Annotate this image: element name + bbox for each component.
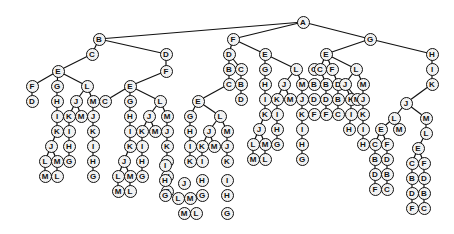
- tree-node: H: [357, 138, 370, 151]
- tree-node: I: [159, 159, 172, 172]
- tree-node: J: [221, 140, 234, 153]
- tree-node: G: [271, 138, 284, 151]
- tree-node: E: [320, 48, 333, 61]
- tree-node: B: [332, 93, 345, 106]
- tree-node: J: [143, 110, 156, 123]
- tree-node: D: [320, 93, 333, 106]
- tree-node: A: [297, 16, 310, 29]
- tree-node: J: [253, 123, 266, 136]
- tree-node: J: [87, 110, 100, 123]
- tree-node: F: [320, 108, 333, 121]
- tree-node: F: [381, 138, 394, 151]
- tree-node: B: [235, 78, 248, 91]
- tree-node: J: [400, 97, 413, 110]
- tree-node: M: [296, 78, 309, 91]
- tree-node: J: [178, 177, 191, 190]
- tree-node: D: [369, 168, 382, 181]
- tree-node: E: [375, 123, 388, 136]
- tree-node: M: [284, 93, 297, 106]
- tree-node: K: [259, 108, 272, 121]
- tree-node: L: [51, 170, 64, 183]
- tree-node: G: [124, 95, 137, 108]
- tree-node: M: [178, 207, 191, 220]
- tree-node: M: [149, 125, 162, 138]
- tree-node: C: [369, 138, 382, 151]
- tree-node: K: [271, 93, 284, 106]
- tree-node: H: [196, 174, 209, 187]
- tree-node: H: [426, 48, 439, 61]
- tree-node: E: [124, 80, 137, 93]
- tree-node: J: [203, 125, 216, 138]
- tree-edge: [303, 22, 370, 39]
- tree-node: I: [357, 123, 370, 136]
- tree-node: D: [160, 48, 173, 61]
- tree-node: F: [160, 65, 173, 78]
- tree-node: L: [290, 63, 303, 76]
- tree-node: I: [51, 110, 64, 123]
- tree-node: L: [154, 95, 167, 108]
- tree-node: K: [124, 140, 137, 153]
- tree-node: C: [223, 78, 236, 91]
- tree-node: E: [412, 142, 425, 155]
- tree-node: F: [26, 80, 39, 93]
- search-tree-diagram: ABFGCDEFFGLDHJMIKMJKIKJHILMGHMLGECGLHJMI…: [0, 0, 454, 234]
- tree-node: M: [51, 155, 64, 168]
- tree-node: I: [136, 140, 149, 153]
- tree-node: G: [184, 110, 197, 123]
- tree-node: L: [388, 112, 401, 125]
- tree-node: G: [296, 153, 309, 166]
- tree-node: L: [112, 170, 125, 183]
- tree-node: M: [112, 185, 125, 198]
- tree-node: M: [259, 138, 272, 151]
- tree-node: D: [418, 172, 431, 185]
- tree-node: M: [247, 153, 260, 166]
- tree-node: I: [426, 63, 439, 76]
- tree-node: J: [161, 125, 174, 138]
- tree-node: B: [308, 78, 321, 91]
- tree-node: F: [406, 202, 419, 215]
- tree-node: D: [406, 187, 419, 200]
- tree-node: B: [381, 168, 394, 181]
- tree-node: D: [26, 95, 39, 108]
- tree-node: H: [136, 155, 149, 168]
- tree-node: I: [196, 155, 209, 168]
- tree-node: K: [161, 140, 174, 153]
- tree-node: H: [271, 123, 284, 136]
- tree-node: C: [235, 63, 248, 76]
- tree-node: H: [159, 174, 172, 187]
- tree-node: I: [87, 140, 100, 153]
- tree-node: K: [136, 125, 149, 138]
- tree-node: H: [296, 138, 309, 151]
- tree-node: K: [184, 155, 197, 168]
- tree-node: L: [259, 153, 272, 166]
- tree-node: K: [357, 108, 370, 121]
- tree-node: F: [418, 157, 431, 170]
- tree-node: G: [136, 170, 149, 183]
- tree-node: G: [63, 155, 76, 168]
- tree-node: G: [87, 170, 100, 183]
- tree-node: D: [235, 93, 248, 106]
- tree-node: D: [223, 48, 236, 61]
- tree-node: I: [124, 125, 137, 138]
- tree-node: L: [39, 155, 52, 168]
- tree-node: C: [86, 48, 99, 61]
- tree-node: E: [192, 95, 205, 108]
- tree-node: M: [75, 110, 88, 123]
- tree-node: H: [63, 140, 76, 153]
- tree-node: L: [350, 63, 363, 76]
- tree-node: I: [184, 140, 197, 153]
- tree-node: C: [332, 108, 345, 121]
- tree-node: C: [381, 183, 394, 196]
- tree-node: L: [172, 192, 185, 205]
- tree-node: G: [51, 80, 64, 93]
- tree-node: M: [39, 170, 52, 183]
- tree-node: J: [339, 78, 352, 91]
- tree-edge: [99, 22, 303, 39]
- tree-node: H: [51, 95, 64, 108]
- tree-node: D: [381, 153, 394, 166]
- tree-node: M: [420, 112, 433, 125]
- tree-node: L: [420, 127, 433, 140]
- tree-node: C: [99, 95, 112, 108]
- tree-node: F: [227, 33, 240, 46]
- tree-node: M: [184, 192, 197, 205]
